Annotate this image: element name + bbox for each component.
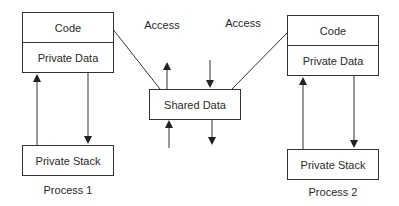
shared-data-box: Shared Data — [149, 89, 241, 120]
process2-private-stack-cell: Private Stack — [288, 150, 378, 179]
process2-name-label: Process 2 — [287, 186, 379, 198]
process1-code-cell: Code — [23, 13, 113, 43]
process1-code-label: Code — [55, 22, 81, 34]
process2-memory-box: Code Private Data — [287, 15, 379, 76]
arrowhead-down-icon — [206, 80, 214, 88]
process1-name-label: Process 1 — [22, 184, 114, 196]
shared-data-label: Shared Data — [164, 99, 226, 111]
arrowhead-up-icon — [165, 120, 173, 128]
access-label-left: Access — [140, 19, 184, 31]
access-line-right — [232, 33, 287, 89]
shared-data-cell: Shared Data — [150, 90, 240, 119]
process1-private-data-label: Private Data — [38, 52, 99, 64]
access-line-left — [112, 28, 160, 89]
process2-private-stack-label: Private Stack — [301, 159, 366, 171]
process2-private-data-label: Private Data — [303, 55, 364, 67]
process2-code-cell: Code — [288, 16, 378, 46]
arrowhead-down-icon — [350, 140, 358, 148]
arrowhead-up-icon — [299, 77, 307, 85]
process1-private-stack-cell: Private Stack — [23, 146, 113, 175]
process1-memory-box: Code Private Data — [22, 12, 114, 73]
arrowhead-up-icon — [33, 74, 41, 82]
process1-private-data-cell: Private Data — [23, 43, 113, 72]
process1-private-stack-box: Private Stack — [22, 145, 114, 176]
arrowhead-down-icon — [208, 137, 216, 145]
process1-private-stack-label: Private Stack — [36, 155, 101, 167]
process2-code-label: Code — [320, 25, 346, 37]
process2-private-data-cell: Private Data — [288, 46, 378, 75]
access-label-right: Access — [221, 17, 265, 29]
arrowhead-up-icon — [163, 62, 171, 70]
arrowhead-down-icon — [84, 136, 92, 144]
process2-private-stack-box: Private Stack — [287, 149, 379, 180]
